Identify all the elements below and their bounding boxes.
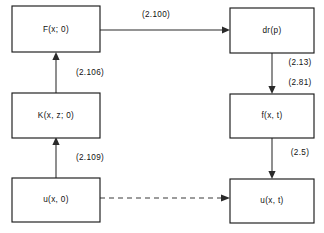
edge-K-to-F-arrowhead (52, 52, 59, 60)
node-u-x-t[interactable]: u(x, t) (230, 179, 314, 223)
node-f-x-t-label: f(x, t) (261, 111, 282, 120)
node-K-xz-0[interactable]: K(x, z; 0) (12, 93, 100, 138)
edge-K-to-F: (2.106) (52, 52, 104, 93)
edge-label-right-upper-a: (2.13) (288, 58, 311, 67)
flow-diagram: (2.100) (2.106) (2.109) (2.13) (2.81) (2… (0, 0, 324, 233)
node-u-x-0-label: u(x, 0) (43, 195, 69, 204)
edge-u0-to-ut-arrowhead (221, 195, 230, 202)
edge-label-right-upper-b: (2.81) (288, 78, 311, 87)
edge-u0-to-K: (2.109) (52, 137, 104, 178)
node-u-x-t-label: u(x, t) (260, 196, 283, 205)
edge-dr-to-f: (2.13) (2.81) (268, 53, 311, 94)
node-u-x-0[interactable]: u(x, 0) (12, 178, 100, 222)
edge-label-left-upper: (2.106) (76, 68, 104, 77)
edge-label-top-horizontal: (2.100) (142, 10, 170, 19)
edge-label-left-lower: (2.109) (76, 153, 104, 162)
node-dr-p[interactable]: dr(p) (230, 8, 314, 53)
edge-dr-to-f-arrowhead (268, 86, 275, 94)
node-dr-p-label: dr(p) (262, 26, 281, 35)
node-F-x-0-label: F(x; 0) (43, 25, 69, 34)
node-K-xz-0-label: K(x, z; 0) (38, 111, 74, 120)
node-f-x-t[interactable]: f(x, t) (230, 94, 314, 138)
edge-label-right-lower: (2.5) (291, 148, 309, 157)
diagram-canvas: (2.100) (2.106) (2.109) (2.13) (2.81) (2… (0, 0, 324, 233)
edge-f-to-ut-arrowhead (268, 171, 275, 179)
edge-f-to-ut: (2.5) (268, 138, 309, 179)
edge-F-to-dr: (2.100) (100, 10, 230, 33)
edge-u0-to-ut-dashed (100, 195, 230, 202)
edge-F-to-dr-arrowhead (222, 26, 230, 33)
node-F-x-0[interactable]: F(x; 0) (12, 6, 100, 52)
